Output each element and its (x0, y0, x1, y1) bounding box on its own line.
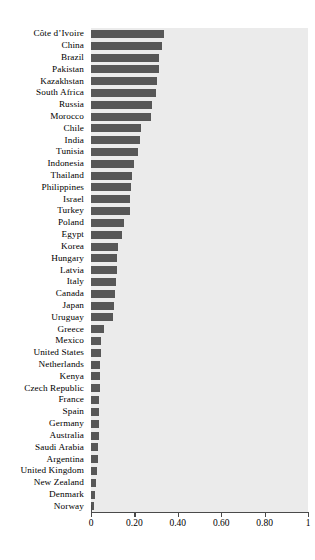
bar-row (91, 217, 308, 229)
bar (91, 372, 100, 380)
bar (91, 361, 100, 369)
bar (91, 266, 117, 274)
bar-row (91, 359, 308, 371)
bar (91, 195, 130, 203)
y-tick-label: Tunisia (0, 146, 88, 158)
x-tick (178, 512, 179, 517)
bar-row (91, 63, 308, 75)
bar-series (91, 28, 308, 512)
y-tick-label: Brazil (0, 52, 88, 64)
y-tick-label: Russia (0, 99, 88, 111)
bar-row (91, 28, 308, 40)
y-tick-label: Turkey (0, 205, 88, 217)
y-tick-label: Egypt (0, 229, 88, 241)
x-tick (91, 512, 92, 517)
y-tick-label: Spain (0, 406, 88, 418)
y-tick-label: Israel (0, 193, 88, 205)
bar-row (91, 441, 308, 453)
bar-row (91, 252, 308, 264)
bar-row (91, 453, 308, 465)
y-tick-label: Saudi Arabia (0, 441, 88, 453)
x-tick (221, 512, 222, 517)
bar (91, 432, 99, 440)
bar-row (91, 288, 308, 300)
bar (91, 420, 99, 428)
bar (91, 65, 159, 73)
bar (91, 396, 99, 404)
bar (91, 455, 98, 463)
x-tick-label: 1 (306, 519, 311, 529)
bar-row (91, 489, 308, 501)
x-axis-line (91, 512, 308, 513)
bar-row (91, 430, 308, 442)
bar-row (91, 300, 308, 312)
bar (91, 101, 152, 109)
y-tick-label: Hungary (0, 252, 88, 264)
y-tick-label: Pakistan (0, 63, 88, 75)
y-tick-label: Norway (0, 501, 88, 513)
bar (91, 290, 115, 298)
bar-row (91, 182, 308, 194)
x-tick-label: 0 (89, 519, 94, 529)
bar-row (91, 465, 308, 477)
bar-row (91, 229, 308, 241)
bar-row (91, 134, 308, 146)
bar (91, 77, 157, 85)
bar (91, 479, 96, 487)
bar-row (91, 335, 308, 347)
y-tick-label: Poland (0, 217, 88, 229)
bar (91, 337, 101, 345)
bar-row (91, 241, 308, 253)
bar (91, 207, 130, 215)
bar (91, 467, 97, 475)
y-tick-label: Latvia (0, 264, 88, 276)
y-tick-label: Czech Republic (0, 382, 88, 394)
bar-row (91, 312, 308, 324)
y-tick-label: Japan (0, 300, 88, 312)
bar-row (91, 146, 308, 158)
bar (91, 302, 114, 310)
bar (91, 254, 117, 262)
bar-row (91, 371, 308, 383)
bar (91, 384, 100, 392)
bar (91, 349, 101, 357)
y-tick-label: Italy (0, 276, 88, 288)
bar (91, 443, 98, 451)
y-tick-label: Mexico (0, 335, 88, 347)
bar (91, 491, 95, 499)
y-tick-label: India (0, 134, 88, 146)
x-tick-label: 0.20 (126, 519, 143, 529)
bar (91, 278, 116, 286)
bar-row (91, 75, 308, 87)
y-tick-label: New Zealand (0, 477, 88, 489)
bar (91, 231, 122, 239)
bar-row (91, 347, 308, 359)
horizontal-bar-chart: Côte d’IvoireChinaBrazilPakistanKazakhst… (0, 0, 315, 560)
y-tick-label: South Africa (0, 87, 88, 99)
bar (91, 172, 132, 180)
y-tick-label: Canada (0, 288, 88, 300)
y-tick-label: Kenya (0, 371, 88, 383)
bar-row (91, 501, 308, 513)
x-tick (134, 512, 135, 517)
y-tick-label: Australia (0, 430, 88, 442)
x-tick-label: 0.60 (213, 519, 230, 529)
bar (91, 325, 104, 333)
y-tick-label: Denmark (0, 489, 88, 501)
bar (91, 113, 151, 121)
bar-row (91, 123, 308, 135)
x-tick (265, 512, 266, 517)
bar-row (91, 394, 308, 406)
bar-row (91, 87, 308, 99)
bar (91, 42, 162, 50)
bar (91, 136, 140, 144)
bar (91, 124, 141, 132)
bar (91, 148, 138, 156)
y-axis-category-labels: Côte d’IvoireChinaBrazilPakistanKazakhst… (0, 28, 88, 512)
y-tick-label: United Kingdom (0, 465, 88, 477)
bar-row (91, 111, 308, 123)
y-tick-label: China (0, 40, 88, 52)
bar-row (91, 477, 308, 489)
bar-row (91, 276, 308, 288)
bar-row (91, 264, 308, 276)
